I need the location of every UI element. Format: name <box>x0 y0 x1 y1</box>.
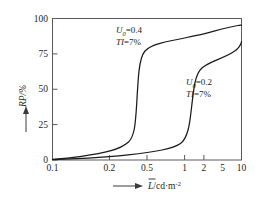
annotation-line-2: TI=7% <box>116 37 142 47</box>
x-tick-label: 0.2 <box>103 163 115 173</box>
x-axis-title-unit: /cd·m <box>153 181 176 191</box>
annotation-line-2: TI=7% <box>186 89 212 99</box>
y-axis-title: RP/% <box>18 85 28 108</box>
x-tick-label: 0.5 <box>141 163 153 173</box>
x-tick-label: 2 <box>202 163 207 173</box>
x-axis-title-exponent: -2 <box>175 180 180 187</box>
x-tick-label: 10 <box>237 163 247 173</box>
x-tick-label: 0.1 <box>47 163 59 173</box>
figure-container: 0 25 50 75 100 0.1 0.2 0.5 1 2 5 10 <box>0 0 260 201</box>
annotation-line-1: U0=0.2 <box>186 77 212 89</box>
x-tick-label: 1 <box>182 163 187 173</box>
y-tick-label: 50 <box>39 84 49 94</box>
x-tick-label: 5 <box>220 163 225 173</box>
annotation-value-ti: =7% <box>194 89 212 99</box>
annotation-value: =0.4 <box>126 25 143 35</box>
y-tick-label: 25 <box>39 120 49 130</box>
annotation-value: =0.2 <box>196 77 212 87</box>
line-chart: 0 25 50 75 100 0.1 0.2 0.5 1 2 5 10 <box>0 0 260 201</box>
annotation-value-ti: =7% <box>124 37 142 47</box>
annotation-line-1: U0=0.4 <box>116 25 143 37</box>
y-tick-label: 100 <box>34 14 49 24</box>
y-tick-label: 75 <box>39 49 49 59</box>
